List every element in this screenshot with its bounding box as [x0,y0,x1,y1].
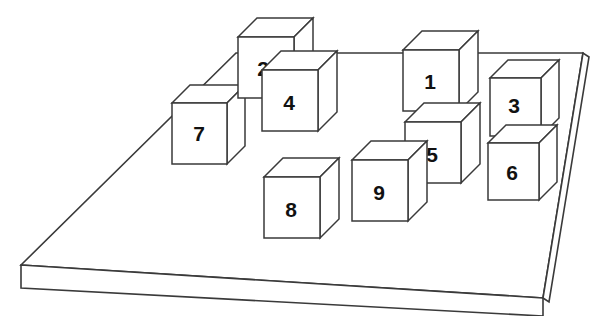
cube-8-label: 8 [285,198,297,221]
cube-3-label: 3 [508,94,520,117]
cube-8[interactable]: 8 [264,158,339,238]
cube-6-label: 6 [506,161,518,184]
cube-1[interactable]: 1 [403,31,478,111]
cube-5-label: 5 [426,143,438,166]
cube-6[interactable]: 6 [488,125,557,200]
cube-9[interactable]: 9 [352,141,427,221]
cube-4[interactable]: 4 [262,51,337,131]
cube-scene-canvas: 7 2 4 3 1 [0,0,605,316]
scene-drawing: 7 2 4 3 1 [0,0,605,316]
cube-9-label: 9 [373,181,385,204]
cube-1-label: 1 [424,70,436,93]
cube-7-label: 7 [193,122,205,145]
cube-4-label: 4 [283,91,295,114]
cube-7[interactable]: 7 [172,85,245,164]
